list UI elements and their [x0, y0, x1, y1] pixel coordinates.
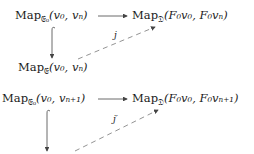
- d2-dashed-arrow: [75, 110, 158, 151]
- d1-dashed-arrow: [78, 27, 155, 59]
- d2-hook-arrow: [47, 110, 50, 151]
- d1-hook-arrow: [52, 27, 55, 58]
- arrows-layer: [0, 0, 254, 154]
